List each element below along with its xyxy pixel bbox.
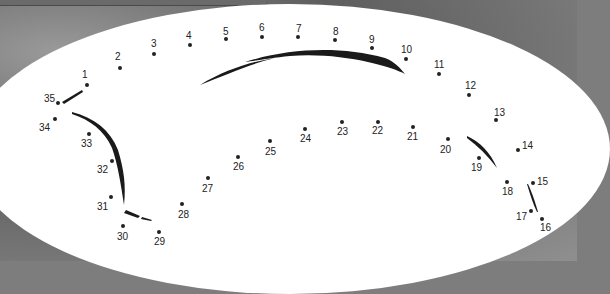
dot-11 [437,72,441,76]
dot-1 [85,83,89,87]
dot-35 [56,101,60,105]
dot-label-7: 7 [296,24,302,34]
dot-label-24: 24 [300,134,311,144]
dot-18 [505,180,509,184]
dot-label-27: 27 [202,184,213,194]
dot-15 [531,181,535,185]
dot-26 [236,155,240,159]
dot-label-16: 16 [540,223,551,233]
dot-label-11: 11 [434,60,444,70]
dot-label-33: 33 [81,139,92,149]
stroke-bottom-left-2 [141,217,152,221]
dot-label-3: 3 [151,39,157,49]
dot-10 [404,57,408,61]
dot-30 [121,224,125,228]
dot-31 [109,195,113,199]
dot-label-15: 15 [537,177,548,187]
stroke-35-1 [62,90,83,104]
dot-16 [540,217,544,221]
dot-label-34: 34 [39,123,50,133]
dot-label-22: 22 [372,126,383,136]
stroke-left-curve [72,112,125,205]
dot-label-18: 18 [502,187,513,197]
dot-8 [333,38,337,42]
dot-label-26: 26 [233,162,244,172]
dot-23 [340,120,344,124]
dot-label-17: 17 [516,212,527,222]
dot-12 [467,93,471,97]
dot-label-14: 14 [522,141,533,151]
dot-label-20: 20 [440,145,451,155]
dot-17 [529,209,533,213]
stroke-bottom-left-1 [124,210,140,218]
dot-label-35: 35 [44,94,55,104]
dot-14 [516,148,520,152]
dot-34 [53,117,57,121]
dot-label-31: 31 [97,202,108,212]
stroke-right-2 [527,184,538,212]
dot-7 [296,35,300,39]
dot-29 [157,230,161,234]
dot-28 [180,202,184,206]
dot-6 [260,35,264,39]
stroke-top-left [200,58,275,85]
dot-label-13: 13 [494,108,505,118]
dot-label-9: 9 [369,35,375,45]
dot-9 [370,46,374,50]
dot-27 [206,176,210,180]
dot-5 [224,37,228,41]
dot-label-32: 32 [97,165,108,175]
dot-4 [188,43,192,47]
dot-32 [110,159,114,163]
dot-label-28: 28 [178,210,189,220]
dot-label-19: 19 [471,163,482,173]
dot-label-21: 21 [407,132,418,142]
dot-label-10: 10 [401,45,412,55]
dot-22 [376,120,380,124]
dot-label-5: 5 [223,27,229,37]
dot-label-12: 12 [465,81,476,91]
dot-19 [477,156,481,160]
dot-label-29: 29 [154,237,165,247]
dot-33 [87,132,91,136]
dot-label-23: 23 [337,127,348,137]
dot-2 [118,66,122,70]
dot-3 [152,52,156,56]
dot-label-6: 6 [259,23,265,33]
dot-label-30: 30 [117,232,128,242]
stroke-top-arc [245,50,405,74]
dot-label-4: 4 [186,31,192,41]
dot-label-2: 2 [115,52,121,62]
dot-20 [446,137,450,141]
dot-label-8: 8 [333,27,339,37]
dot-label-1: 1 [82,70,88,80]
dot-13 [494,118,498,122]
dot-label-25: 25 [265,147,276,157]
dot-24 [303,127,307,131]
dot-21 [411,125,415,129]
dot-25 [268,139,272,143]
